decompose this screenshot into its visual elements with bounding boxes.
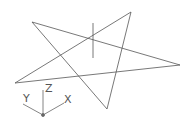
y-axis-icon: [23, 104, 43, 115]
z-axis-label: Z: [45, 82, 53, 95]
x-axis-label: X: [64, 93, 72, 106]
y-axis-label: Y: [22, 92, 30, 105]
drawing-viewport[interactable]: Z X Y: [0, 0, 190, 125]
star-polyline[interactable]: [15, 12, 180, 109]
x-axis-icon: [43, 103, 64, 115]
ucs-origin-icon: [42, 114, 45, 117]
star-edge[interactable]: [107, 12, 131, 109]
drawing-canvas[interactable]: Z X Y: [0, 0, 190, 125]
